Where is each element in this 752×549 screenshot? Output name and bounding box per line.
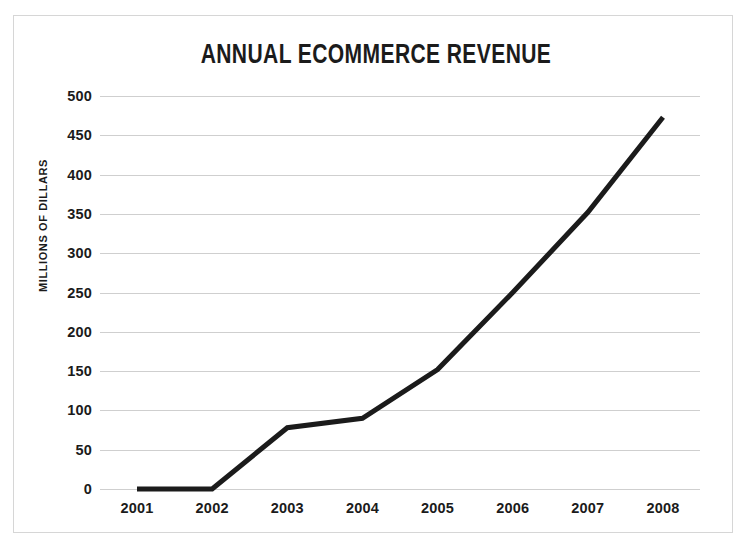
plot-area [100,96,700,489]
y-axis-tick-label: 500 [40,88,92,104]
y-axis-tick-label: 0 [40,481,92,497]
x-axis-tick-label: 2006 [478,500,548,516]
chart-title: ANNUAL ECOMMERCE REVENUE [83,39,670,70]
x-axis-tick-label: 2007 [553,500,623,516]
revenue-line-path [137,117,663,489]
chart-figure: ANNUAL ECOMMERCE REVENUE MILLIONS OF DIL… [0,0,752,549]
y-axis-tick-label: 200 [40,324,92,340]
x-axis-tick-labels: 20012002200320042005200620072008 [100,500,700,522]
x-axis-tick-label: 2001 [102,500,172,516]
y-axis-tick-label: 300 [40,245,92,261]
data-series-line [100,96,700,489]
x-axis-tick-label: 2002 [177,500,247,516]
y-axis-tick-label: 50 [40,442,92,458]
y-axis-tick-label: 150 [40,363,92,379]
y-axis-tick-label: 100 [40,402,92,418]
y-axis-tick-label: 400 [40,167,92,183]
y-axis-tick-labels: 050100150200250300350400450500 [40,96,92,489]
y-axis-tick-label: 350 [40,206,92,222]
y-axis-tick-label: 450 [40,127,92,143]
x-axis-tick-label: 2005 [403,500,473,516]
y-axis-tick-label: 250 [40,285,92,301]
x-axis-tick-label: 2004 [327,500,397,516]
x-axis-tick-label: 2008 [628,500,698,516]
x-axis-tick-label: 2003 [252,500,322,516]
